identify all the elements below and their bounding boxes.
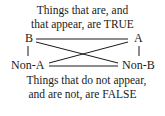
bottom-caption-line-2: and are not, are FALSE (0, 88, 165, 101)
node-non-b: Non-B (122, 59, 155, 72)
bottom-caption-line-1: Things that do not appear, (0, 74, 165, 87)
node-a: A (134, 32, 143, 45)
edge-a-non-a (49, 42, 128, 63)
edge-b-non-b (36, 42, 118, 63)
node-non-a: Non-A (11, 59, 44, 72)
node-b: B (25, 32, 33, 45)
